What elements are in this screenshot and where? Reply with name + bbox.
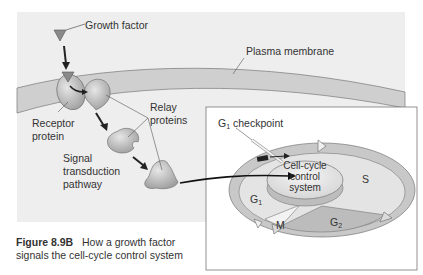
label-phase-m: M [276,219,285,231]
label-signal-2: transduction [63,165,120,177]
label-growth-factor: Growth factor [85,19,148,31]
label-phase-s: S [362,173,369,185]
label-plasma-membrane: Plasma membrane [246,45,334,57]
label-relay-proteins-1: Relay [150,101,177,113]
label-receptor-protein-1: Receptor [32,117,75,129]
figure-caption: Figure 8.9B How a growth factor signals … [16,236,183,262]
label-relay-proteins-2: proteins [150,114,187,126]
label-receptor-protein-2: protein [32,130,64,142]
figure-number: Figure 8.9B [16,236,73,248]
label-signal-3: pathway [63,178,102,190]
label-phase-g1: G1 [250,193,262,209]
label-g1-checkpoint: G1 checkpoint [218,117,283,133]
label-control-system: Cell-cycle control system [275,160,335,193]
label-phase-g2: G2 [330,216,342,232]
label-signal-1: Signal [63,152,92,164]
